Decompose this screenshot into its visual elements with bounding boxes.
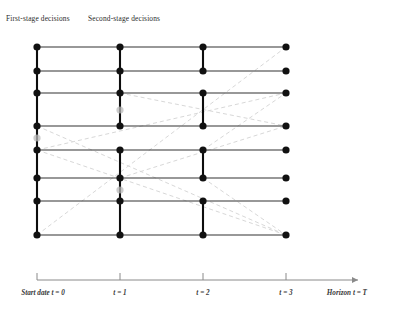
scenario-tree-figure: First-stage decisions Second-stage decis… bbox=[0, 0, 394, 310]
decision-node bbox=[116, 67, 123, 74]
timeline-arrow-head bbox=[352, 277, 358, 283]
timeline-tick-label-t2: t = 2 bbox=[196, 289, 209, 297]
decision-node bbox=[199, 67, 206, 74]
decision-node bbox=[282, 89, 289, 96]
ghost-node bbox=[116, 186, 123, 193]
decision-node bbox=[199, 122, 206, 129]
decision-node bbox=[116, 122, 123, 129]
decision-node bbox=[33, 231, 40, 238]
timeline-tick-label-tT: Horizon t = T bbox=[327, 289, 367, 297]
dashed-link bbox=[37, 126, 286, 235]
decision-node bbox=[282, 231, 289, 238]
dashed-link-group bbox=[37, 47, 286, 235]
dashed-link bbox=[37, 150, 286, 235]
nonanticipativity-bundle-group bbox=[37, 47, 203, 235]
decision-node bbox=[282, 43, 289, 50]
decision-node bbox=[33, 197, 40, 204]
scenario-tree-canvas bbox=[0, 0, 394, 310]
decision-node bbox=[116, 231, 123, 238]
timeline-axis-group bbox=[37, 273, 358, 283]
decision-node bbox=[282, 197, 289, 204]
ghost-node bbox=[33, 134, 40, 141]
decision-node bbox=[199, 43, 206, 50]
decision-node bbox=[282, 146, 289, 153]
decision-node bbox=[199, 174, 206, 181]
timeline-tick-label-t1: t = 1 bbox=[113, 289, 126, 297]
decision-node bbox=[199, 197, 206, 204]
decision-node bbox=[33, 89, 40, 96]
decision-node bbox=[33, 122, 40, 129]
decision-node bbox=[282, 174, 289, 181]
decision-node bbox=[33, 174, 40, 181]
decision-node bbox=[116, 89, 123, 96]
decision-node bbox=[282, 122, 289, 129]
decision-node bbox=[116, 43, 123, 50]
dashed-link bbox=[203, 93, 286, 150]
timeline-tick-label-t3: t = 3 bbox=[279, 289, 292, 297]
decision-node bbox=[199, 89, 206, 96]
decision-node bbox=[282, 67, 289, 74]
decision-node bbox=[33, 67, 40, 74]
ghost-node bbox=[116, 106, 123, 113]
decision-node bbox=[199, 231, 206, 238]
decision-node bbox=[33, 43, 40, 50]
decision-node bbox=[116, 146, 123, 153]
decision-node bbox=[33, 146, 40, 153]
timeline-tick-label-t0: Start date t = 0 bbox=[21, 289, 65, 297]
dashed-link bbox=[203, 178, 286, 235]
decision-node bbox=[116, 197, 123, 204]
decision-node bbox=[116, 174, 123, 181]
decision-node bbox=[199, 146, 206, 153]
